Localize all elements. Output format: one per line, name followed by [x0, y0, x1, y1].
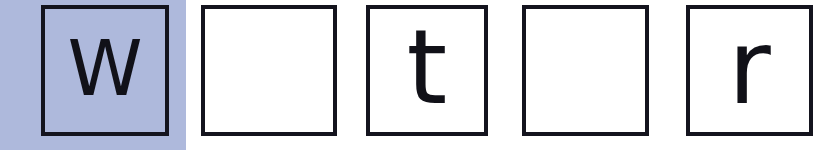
letter-glyph-5: r [728, 15, 771, 119]
letter-glyph-3: t [407, 15, 448, 119]
letter-cell-4[interactable] [522, 5, 649, 136]
letter-cell-5[interactable]: r [686, 5, 813, 136]
letter-grid: W t r [0, 0, 837, 150]
letter-cell-1[interactable]: W [41, 5, 169, 136]
letter-cell-3[interactable]: t [366, 5, 488, 136]
letter-glyph-1: W [67, 31, 142, 107]
letter-cell-2[interactable] [201, 5, 337, 136]
